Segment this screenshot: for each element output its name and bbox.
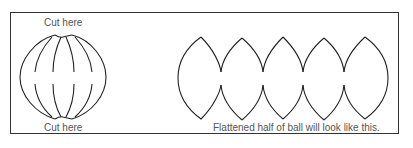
flattened-caption: Flattened half of ball will look like th… (213, 122, 380, 133)
cut-here-top-label: Cut here (44, 17, 82, 28)
cut-here-bottom-label: Cut here (44, 122, 82, 133)
flattened-petals (178, 37, 388, 120)
ball-sphere (20, 35, 106, 119)
